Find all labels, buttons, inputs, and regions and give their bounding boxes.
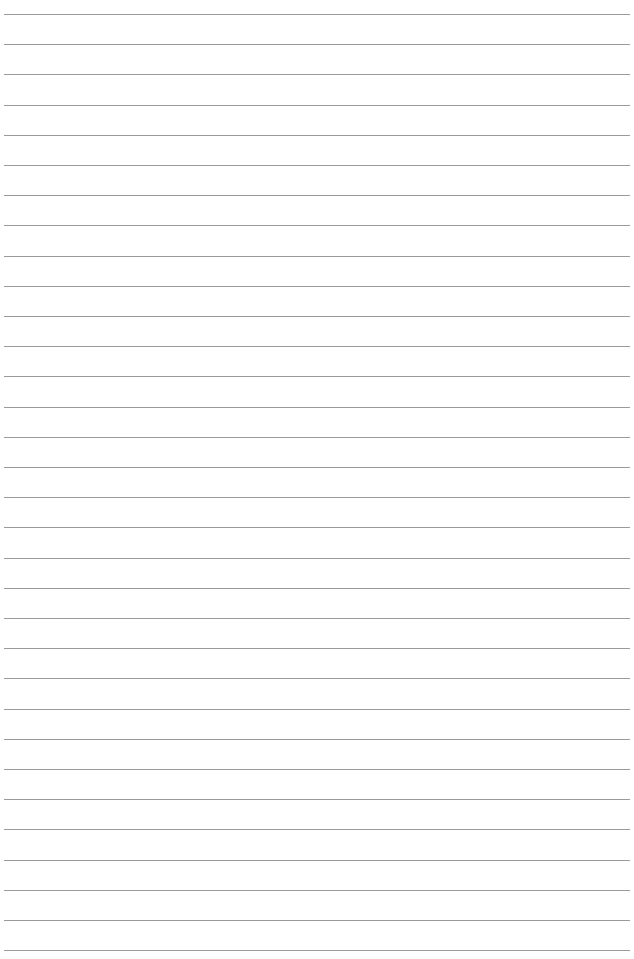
- ruled-line: [4, 648, 630, 649]
- ruled-line: [4, 860, 630, 861]
- ruled-line: [4, 74, 630, 75]
- ruled-line: [4, 739, 630, 740]
- ruled-line: [4, 467, 630, 468]
- ruled-line: [4, 195, 630, 196]
- ruled-line: [4, 376, 630, 377]
- ruled-line: [4, 497, 630, 498]
- ruled-line: [4, 437, 630, 438]
- ruled-line: [4, 950, 630, 951]
- ruled-line: [4, 135, 630, 136]
- ruled-line: [4, 709, 630, 710]
- ruled-line: [4, 346, 630, 347]
- ruled-line: [4, 678, 630, 679]
- lined-paper-page: [0, 0, 634, 959]
- ruled-line: [4, 890, 630, 891]
- ruled-line: [4, 829, 630, 830]
- ruled-line: [4, 14, 630, 15]
- ruled-line: [4, 920, 630, 921]
- ruled-line: [4, 286, 630, 287]
- ruled-line: [4, 44, 630, 45]
- ruled-line: [4, 618, 630, 619]
- ruled-line: [4, 527, 630, 528]
- ruled-line: [4, 316, 630, 317]
- ruled-line: [4, 558, 630, 559]
- ruled-line: [4, 407, 630, 408]
- ruled-line: [4, 105, 630, 106]
- ruled-line: [4, 225, 630, 226]
- ruled-line: [4, 588, 630, 589]
- ruled-line: [4, 799, 630, 800]
- ruled-line: [4, 769, 630, 770]
- ruled-line: [4, 256, 630, 257]
- ruled-line: [4, 165, 630, 166]
